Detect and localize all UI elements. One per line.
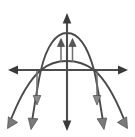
x-axis-left-arrowhead (8, 66, 18, 75)
stretched-parabola-left-tip (28, 118, 38, 130)
original-parabola-right-tip (117, 117, 127, 129)
stretch-arrow-left-up-head (57, 39, 64, 47)
y-axis-down-arrowhead (63, 121, 72, 132)
axes-group (8, 13, 128, 131)
original-parabola-left-tip (8, 117, 18, 129)
figure-canvas (0, 0, 135, 137)
parabola-transformation-figure: Vertical stretch of a downward-opening p… (0, 0, 135, 137)
y-axis-up-arrowhead (63, 13, 72, 24)
stretched-parabola-right-tip (97, 118, 107, 130)
x-axis-right-arrowhead (118, 66, 128, 75)
stretch-arrow-right-up-head (69, 39, 76, 47)
